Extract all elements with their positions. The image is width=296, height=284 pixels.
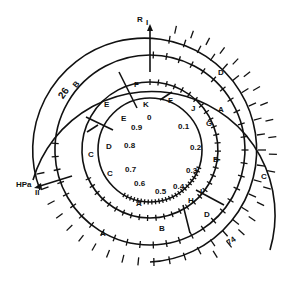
ring2-C: C bbox=[107, 169, 113, 178]
ring2-J: J bbox=[191, 104, 195, 113]
ring4-C: C bbox=[261, 172, 267, 181]
scale-0-9: 0.9 bbox=[131, 123, 143, 132]
ring2-I: I bbox=[200, 187, 202, 196]
scale-0-4: 0.4 bbox=[173, 182, 185, 191]
ring3-D: D bbox=[204, 210, 210, 219]
ring3-B: B bbox=[159, 224, 165, 233]
axis-label-i: I bbox=[146, 18, 148, 27]
ring4-D: D bbox=[218, 68, 224, 77]
ring3-E: E bbox=[104, 100, 110, 109]
ring3-A: A bbox=[218, 105, 224, 114]
ring2-G: G bbox=[206, 119, 212, 128]
axis-label-ii: II bbox=[35, 188, 39, 197]
ring2-B: B bbox=[213, 155, 219, 164]
ring2-D: D bbox=[106, 142, 112, 151]
ring4-B: B bbox=[71, 79, 82, 89]
ring4-A: A bbox=[100, 229, 106, 238]
label-26: 26 bbox=[56, 85, 72, 101]
scale-0-3: 0.3 bbox=[186, 166, 198, 175]
ring2-H: H bbox=[188, 196, 194, 205]
scale-0-5: 0.5 bbox=[155, 187, 167, 196]
scale-0: 0 bbox=[147, 113, 152, 122]
scale-0-8: 0.8 bbox=[124, 141, 136, 150]
axis-label-hpa: HPa bbox=[16, 180, 32, 189]
scale-0-2: 0.2 bbox=[190, 143, 202, 152]
scale-0-1: 0.1 bbox=[178, 122, 190, 131]
ring2-F: F bbox=[168, 96, 173, 105]
ring2-A: A bbox=[136, 199, 142, 208]
ring3-F: F bbox=[134, 80, 139, 89]
scale-0-6: 0.6 bbox=[134, 179, 146, 188]
ring3-C: C bbox=[88, 150, 94, 159]
horizontal-axis bbox=[40, 176, 72, 186]
ring2-E: E bbox=[121, 114, 127, 123]
circular-diagram: R I HPa II 26 74 0 0.1 0.2 0.3 0.4 0.5 0… bbox=[0, 0, 296, 284]
axis-label-r: R bbox=[137, 15, 143, 24]
scale-0-7: 0.7 bbox=[125, 165, 137, 174]
ring2-K: K bbox=[143, 100, 149, 109]
